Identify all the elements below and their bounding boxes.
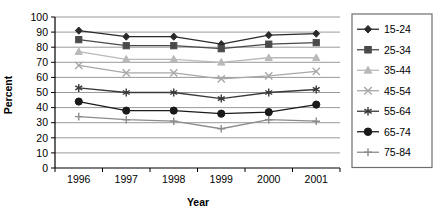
- data-point-marker: [365, 46, 372, 53]
- data-point-marker: [218, 46, 224, 52]
- data-point-marker: [313, 101, 320, 108]
- data-point-marker: [76, 37, 82, 43]
- y-tick-label: 70: [36, 56, 48, 68]
- legend[interactable]: 15-2425-3435-4445-5455-6465-7475-84: [352, 14, 432, 168]
- legend-item-label: 45-54: [384, 85, 411, 97]
- data-point-marker: [123, 43, 129, 49]
- x-tick-label: 1998: [162, 173, 186, 185]
- y-tick-label: 10: [36, 147, 48, 159]
- legend-item-label: 55-64: [384, 105, 411, 117]
- y-tick-label: 90: [36, 26, 48, 38]
- y-tick-label: 80: [36, 41, 48, 53]
- data-point-marker: [265, 109, 272, 116]
- y-tick-label: 60: [36, 71, 48, 83]
- legend-item-label: 35-44: [384, 64, 411, 76]
- data-point-marker: [218, 110, 225, 117]
- x-tick-label: 2001: [305, 173, 329, 185]
- chart-svg: 1009080706050403020100 19961997199819992…: [0, 0, 436, 212]
- x-tick-label: 1997: [115, 173, 139, 185]
- x-axis-title: Year: [187, 196, 209, 208]
- legend-item-label: 75-84: [384, 146, 411, 158]
- data-point-marker: [75, 98, 82, 105]
- data-point-marker: [123, 107, 130, 114]
- line-chart-figure: 1009080706050403020100 19961997199819992…: [0, 0, 436, 212]
- y-axis-title: Percent: [2, 75, 14, 114]
- y-tick-label: 0: [42, 162, 48, 174]
- data-point-marker: [266, 41, 272, 47]
- x-tick-label: 2000: [257, 173, 281, 185]
- legend-item-label: 25-34: [384, 44, 411, 56]
- legend-item-label: 65-74: [384, 126, 411, 138]
- x-tick-label: 1996: [67, 173, 91, 185]
- data-point-marker: [313, 40, 319, 46]
- y-tick-label: 100: [30, 11, 48, 23]
- data-point-marker: [170, 107, 177, 114]
- data-point-marker: [171, 43, 177, 49]
- y-tick-label: 40: [36, 101, 48, 113]
- y-tick-label: 20: [36, 132, 48, 144]
- y-tick-label: 50: [36, 86, 48, 98]
- data-point-marker: [364, 128, 372, 136]
- y-tick-label: 30: [36, 116, 48, 128]
- legend-item-label: 15-24: [384, 23, 411, 35]
- x-tick-label: 1999: [210, 173, 234, 185]
